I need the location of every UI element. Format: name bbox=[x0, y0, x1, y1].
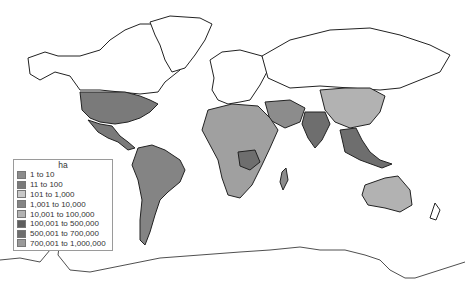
legend-title: ha bbox=[14, 160, 112, 170]
legend-swatch bbox=[17, 239, 26, 247]
legend-item: 100,001 to 500,000 bbox=[14, 219, 112, 229]
legend-item: 1,001 to 10,000 bbox=[14, 199, 112, 209]
region-usa bbox=[80, 92, 158, 124]
legend-swatch bbox=[17, 210, 26, 218]
region-russia bbox=[262, 28, 450, 90]
legend-item: 500,001 to 700,000 bbox=[14, 229, 112, 239]
legend-item: 11 to 100 bbox=[14, 180, 112, 190]
region-mexico bbox=[88, 120, 135, 150]
legend-item: 700,001 to 1,000,000 bbox=[14, 239, 112, 249]
legend-swatch bbox=[17, 230, 26, 238]
legend-item: 1 to 10 bbox=[14, 170, 112, 180]
legend-swatch bbox=[17, 200, 26, 208]
region-australia bbox=[362, 176, 412, 212]
region-new-zealand bbox=[430, 203, 440, 220]
legend-swatch bbox=[17, 181, 26, 189]
region-se-asia bbox=[340, 128, 392, 168]
legend-item: 101 to 1,000 bbox=[14, 190, 112, 200]
legend-swatch bbox=[17, 220, 26, 228]
legend-item: 10,001 to 100,000 bbox=[14, 209, 112, 219]
region-china bbox=[320, 88, 385, 128]
map-legend: ha 1 to 10 11 to 100 101 to 1,000 1,001 … bbox=[13, 159, 113, 251]
legend-swatch bbox=[17, 171, 26, 179]
region-madagascar bbox=[280, 168, 288, 190]
region-south-america bbox=[132, 145, 185, 245]
region-europe bbox=[210, 50, 268, 104]
legend-swatch bbox=[17, 190, 26, 198]
region-india bbox=[302, 112, 330, 148]
region-africa bbox=[202, 104, 278, 198]
